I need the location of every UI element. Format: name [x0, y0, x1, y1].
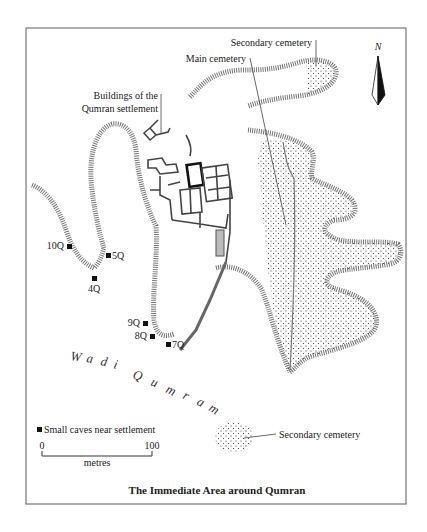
svg-text:a: a — [85, 350, 100, 367]
svg-text:7Q: 7Q — [172, 339, 185, 350]
legend-caves-label: Small caves near settlement — [44, 424, 156, 435]
label-secondary-cemetery-bottom: Secondary cemetery — [279, 429, 360, 440]
svg-text:4Q: 4Q — [88, 283, 101, 294]
scale-start: 0 — [40, 440, 45, 451]
map-title: The Immediate Area around Qumran — [129, 484, 306, 496]
label-main-cemetery: Main cemetery — [186, 53, 246, 64]
secondary-cemetery-bottom-area — [215, 422, 253, 452]
scale-end: 100 — [145, 440, 160, 451]
label-buildings-line1: Buildings of the — [94, 90, 159, 101]
svg-text:10Q: 10Q — [47, 240, 65, 251]
svg-text:9Q: 9Q — [128, 317, 141, 328]
scale-unit: metres — [84, 457, 111, 468]
cave-marker-icon — [37, 427, 42, 432]
qumran-map: N Secondary cemetery Main cemetery Build… — [0, 0, 427, 532]
label-buildings-line2: Qumran settlement — [82, 103, 159, 114]
svg-text:8Q: 8Q — [135, 330, 148, 341]
label-secondary-cemetery-top: Secondary cemetery — [231, 37, 312, 48]
north-label: N — [374, 41, 383, 52]
svg-text:5Q: 5Q — [112, 250, 125, 261]
